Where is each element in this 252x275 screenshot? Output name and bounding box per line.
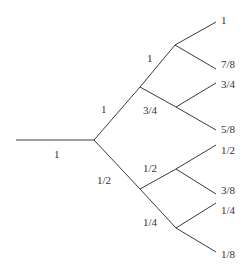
leaf-label-1: 1 — [221, 14, 227, 26]
edge-leaf-3 — [176, 83, 216, 107]
edge-label-upper-upper: 1 — [147, 52, 153, 64]
edge-leaf-2 — [175, 45, 216, 69]
leaf-label-3: 3/4 — [221, 78, 236, 90]
edge-leaf-6 — [176, 169, 216, 194]
leaf-label-8: 1/8 — [221, 248, 236, 260]
edge-label-lower-upper: 1/2 — [143, 162, 157, 174]
edge-leaf-1 — [175, 22, 216, 45]
leaf-label-6: 3/8 — [221, 184, 236, 196]
edge-label-root: 1 — [54, 148, 60, 160]
edge-leaf-4 — [176, 107, 216, 130]
edge-leaf-7 — [176, 203, 216, 228]
edge-label-upper: 1 — [101, 103, 107, 115]
leaf-label-5: 1/2 — [221, 144, 235, 156]
leaf-label-2: 7/8 — [221, 58, 236, 70]
leaf-label-7: 1/4 — [221, 204, 236, 216]
edge-upper-upper — [140, 45, 175, 87]
edge-leaf-5 — [176, 145, 216, 169]
leaf-label-4: 5/8 — [221, 123, 236, 135]
edge-label-lower-lower: 1/4 — [143, 216, 158, 228]
edge-leaf-8 — [176, 228, 216, 252]
tree-diagram: 1 1 1/2 1 3/4 1/2 1/4 1 7/8 3/4 5/8 1/2 … — [0, 0, 252, 275]
edge-label-lower: 1/2 — [97, 174, 111, 186]
edge-label-upper-lower: 3/4 — [143, 104, 158, 116]
